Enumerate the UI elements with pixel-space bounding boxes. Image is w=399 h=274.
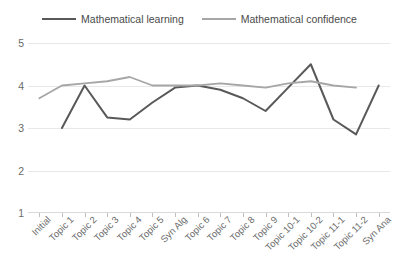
line-chart: Mathematical learning Mathematical confi…	[0, 0, 399, 274]
chart-legend: Mathematical learning Mathematical confi…	[0, 8, 399, 30]
x-tick-label-topic-6: Topic 6	[182, 214, 211, 243]
x-tick-label-topic-1: Topic 1	[47, 214, 76, 243]
legend-label-series-1: Mathematical confidence	[241, 13, 357, 25]
legend-swatch-series-1	[202, 18, 236, 20]
y-tick-label: 4	[2, 80, 24, 91]
x-tick-label-topic-7: Topic 7	[205, 214, 234, 243]
legend-entry-mathematical-confidence: Mathematical confidence	[202, 13, 357, 25]
plot-area	[28, 43, 390, 213]
legend-entry-mathematical-learning: Mathematical learning	[42, 13, 184, 25]
series-lines	[28, 43, 390, 213]
y-tick-label: 1	[2, 208, 24, 219]
y-tick-label: 3	[2, 123, 24, 134]
x-tick-label-topic-2: Topic 2	[69, 214, 98, 243]
legend-swatch-series-0	[42, 18, 76, 20]
y-tick-label: 2	[2, 165, 24, 176]
x-axis: InitialTopic 1Topic 2Topic 3Topic 4Topic…	[28, 214, 390, 274]
y-axis: 12345	[0, 43, 24, 213]
series-line-mathematical-learning	[62, 64, 379, 134]
x-tick-label-topic-8: Topic 8	[228, 214, 257, 243]
legend-label-series-0: Mathematical learning	[81, 13, 184, 25]
y-tick-label: 5	[2, 38, 24, 49]
